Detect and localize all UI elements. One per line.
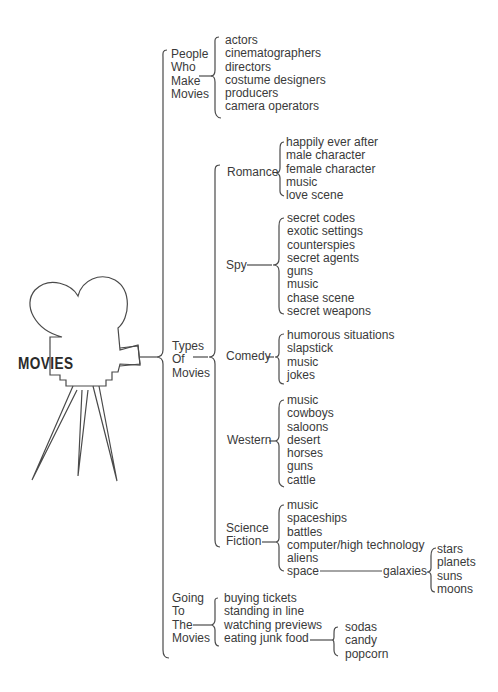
list-item: music: [287, 394, 334, 407]
list-item: saloons: [287, 421, 334, 434]
center-node: MOVIES: [18, 355, 73, 373]
list-item: spaceships: [287, 512, 424, 525]
western-items: music cowboys saloons desert horses guns…: [287, 394, 334, 487]
label-line: Going: [172, 592, 210, 605]
list-item: cinematographers: [225, 47, 326, 60]
label-line: The: [172, 619, 210, 632]
list-item: camera operators: [225, 100, 326, 113]
list-item: guns: [287, 460, 334, 473]
list-item: chase scene: [287, 292, 371, 305]
label-line: Of: [172, 353, 210, 366]
list-item: horses: [287, 447, 334, 460]
western-label: Western: [227, 434, 271, 447]
list-item: desert: [287, 434, 334, 447]
list-item: buying tickets: [224, 592, 322, 605]
people-branch-label: People Who Make Movies: [171, 48, 209, 101]
list-item: popcorn: [345, 648, 388, 661]
spy-label: Spy: [226, 259, 247, 272]
label-line: Science: [226, 522, 269, 535]
list-item: music: [287, 356, 394, 369]
list-item: standing in line: [224, 605, 322, 618]
label-line: Types: [172, 340, 210, 353]
romance-items: happily ever after male character female…: [286, 136, 378, 202]
galaxies-label: galaxies: [383, 565, 427, 578]
list-item: battles: [287, 526, 424, 539]
people-items: actors cinematographers directors costum…: [225, 34, 326, 114]
comedy-items: humorous situations slapstick music joke…: [287, 329, 394, 382]
label-line: Movies: [172, 632, 210, 645]
list-item: jokes: [287, 369, 394, 382]
list-item: humorous situations: [287, 329, 394, 342]
spy-items: secret codes exotic settings counterspie…: [287, 212, 371, 318]
list-item: sodas: [345, 621, 388, 634]
list-item: producers: [225, 87, 326, 100]
label-line: Movies: [172, 367, 210, 380]
label-line: To: [172, 605, 210, 618]
list-item: secret codes: [287, 212, 371, 225]
list-item: watching previews: [224, 619, 322, 632]
list-item: costume designers: [225, 74, 326, 87]
list-item: music: [287, 499, 424, 512]
list-item: stars: [437, 543, 476, 556]
scifi-label: Science Fiction: [226, 522, 269, 549]
list-item: candy: [345, 634, 388, 647]
list-item: happily ever after: [286, 136, 378, 149]
list-item: actors: [225, 34, 326, 47]
types-branch-label: Types Of Movies: [172, 340, 210, 380]
list-item: music: [286, 176, 378, 189]
list-item: love scene: [286, 189, 378, 202]
going-branch-label: Going To The Movies: [172, 592, 210, 645]
list-item: cowboys: [287, 407, 334, 420]
list-item: suns: [437, 570, 476, 583]
list-item: computer/high technology: [287, 539, 424, 552]
list-item: secret agents: [287, 252, 371, 265]
romance-label: Romance: [227, 166, 278, 179]
list-item: exotic settings: [287, 225, 371, 238]
galaxies-items: stars planets suns moons: [437, 543, 476, 596]
going-items: buying tickets standing in line watching…: [224, 592, 322, 645]
list-item: directors: [225, 61, 326, 74]
list-item: music: [287, 278, 371, 291]
junk-food-items: sodas candy popcorn: [345, 621, 388, 661]
label-line: Movies: [171, 88, 209, 101]
label-line: Make: [171, 75, 209, 88]
list-item: female character: [286, 163, 378, 176]
list-item: counterspies: [287, 239, 371, 252]
list-item: guns: [287, 265, 371, 278]
label-line: Who: [171, 61, 209, 74]
list-item: eating junk food: [224, 632, 322, 645]
list-item: cattle: [287, 474, 334, 487]
list-item: slapstick: [287, 342, 394, 355]
list-item: secret weapons: [287, 305, 371, 318]
label-line: People: [171, 48, 209, 61]
label-line: Fiction: [226, 535, 269, 548]
list-item: male character: [286, 149, 378, 162]
list-item: moons: [437, 583, 476, 596]
list-item: planets: [437, 556, 476, 569]
comedy-label: Comedy: [226, 350, 271, 363]
